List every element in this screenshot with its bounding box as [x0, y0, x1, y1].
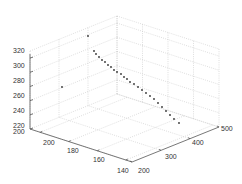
data-point — [120, 73, 122, 75]
z-tick-300: 300 — [13, 62, 25, 69]
corner-tick-200: 200 — [13, 128, 25, 135]
x-tick-500: 500 — [221, 125, 233, 132]
y-tick-160: 160 — [93, 156, 105, 163]
data-point — [98, 56, 100, 58]
data-point — [178, 122, 180, 124]
axes — [30, 54, 219, 162]
x-tick-300: 300 — [165, 153, 177, 160]
y-tick-140: 140 — [117, 167, 129, 174]
z-tick-320: 320 — [13, 47, 25, 54]
z-tick-260: 260 — [13, 92, 25, 99]
x-tick-400: 400 — [192, 139, 204, 146]
data-point — [161, 106, 163, 108]
data-point — [169, 114, 171, 116]
data-point — [173, 118, 175, 120]
z-tick-240: 240 — [13, 107, 25, 114]
data-point — [126, 78, 128, 80]
data-point — [149, 95, 151, 97]
x-tick-200: 200 — [138, 167, 150, 174]
data-point — [165, 110, 167, 112]
grid-lines — [30, 16, 219, 162]
data-point — [87, 35, 89, 37]
scatter3d-plot: 320 300 280 260 240 220 200 200 180 160 … — [0, 0, 242, 184]
data-point — [133, 83, 135, 85]
data-point — [113, 69, 115, 71]
z-tick-280: 280 — [13, 77, 25, 84]
data-point — [104, 61, 106, 63]
data-point — [95, 53, 97, 55]
data-point — [123, 76, 125, 78]
data-point — [153, 98, 155, 100]
data-point — [61, 86, 63, 88]
y-tick-200: 200 — [43, 139, 55, 146]
data-point — [101, 59, 103, 61]
data-points — [61, 35, 180, 124]
data-point — [157, 102, 159, 104]
data-point — [107, 64, 109, 66]
data-point — [129, 81, 131, 83]
data-point — [145, 92, 147, 94]
y-tick-180: 180 — [67, 147, 79, 154]
data-point — [137, 86, 139, 88]
data-point — [110, 66, 112, 68]
data-point — [141, 89, 143, 91]
data-point — [93, 50, 95, 52]
data-point — [116, 71, 118, 73]
